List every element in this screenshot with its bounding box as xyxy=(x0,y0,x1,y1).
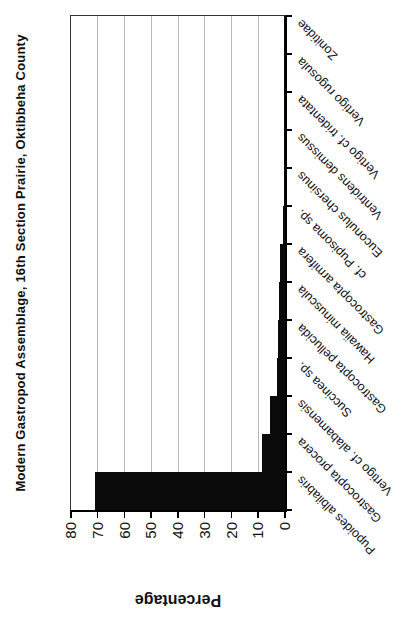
y-tick-mark xyxy=(231,512,233,518)
y-tick-mark xyxy=(70,512,72,518)
bar-1 xyxy=(95,472,285,510)
x-tick-mark xyxy=(286,319,292,321)
y-tick-mark xyxy=(257,512,259,518)
x-tick-mark xyxy=(286,433,292,435)
gridline xyxy=(258,16,259,510)
bar-11 xyxy=(284,92,285,130)
y-tick-label: 50 xyxy=(142,522,160,566)
chart-canvas: Modern Gastropod Assemblage, 16th Sectio… xyxy=(0,0,411,618)
y-tick-mark xyxy=(284,512,286,518)
gridline xyxy=(178,16,179,510)
bar-4 xyxy=(277,358,285,396)
y-tick-mark xyxy=(124,512,126,518)
bar-10 xyxy=(284,130,285,168)
bar-8 xyxy=(283,206,285,244)
gridline xyxy=(151,16,152,510)
chart-title: Modern Gastropod Assemblage, 16th Sectio… xyxy=(13,6,28,520)
y-tick-mark xyxy=(97,512,99,518)
x-tick-mark xyxy=(286,509,292,511)
bar-13 xyxy=(284,16,285,54)
bar-2 xyxy=(262,434,285,472)
bar-5 xyxy=(278,320,285,358)
bar-9 xyxy=(284,168,285,206)
bar-7 xyxy=(280,244,285,282)
category-label: cf. Pupisoma sp. xyxy=(294,207,369,282)
x-tick-mark xyxy=(286,15,292,17)
y-tick-label: 60 xyxy=(116,522,134,566)
y-tick-label: 70 xyxy=(89,522,107,566)
x-tick-mark xyxy=(286,91,292,93)
scanned-chart-page: Modern Gastropod Assemblage, 16th Sectio… xyxy=(0,0,411,618)
x-tick-mark xyxy=(286,395,292,397)
bar-3 xyxy=(270,396,285,434)
y-axis-title: Percentage xyxy=(128,590,228,610)
y-tick-label: 80 xyxy=(62,522,80,566)
x-tick-mark xyxy=(286,243,292,245)
gridline xyxy=(204,16,205,510)
y-tick-mark xyxy=(204,512,206,518)
y-tick-label: 40 xyxy=(169,522,187,566)
x-tick-mark xyxy=(286,129,292,131)
y-tick-mark xyxy=(150,512,152,518)
y-tick-label: 30 xyxy=(196,522,214,566)
y-tick-label: 10 xyxy=(249,522,267,566)
x-tick-mark xyxy=(286,53,292,55)
bar-6 xyxy=(279,282,285,320)
gridline xyxy=(231,16,232,510)
bar-12 xyxy=(284,54,285,92)
x-tick-mark xyxy=(286,357,292,359)
gridline xyxy=(124,16,125,510)
category-label: Vertigo rugosula xyxy=(294,55,368,129)
y-tick-label: 0 xyxy=(276,522,294,566)
x-tick-mark xyxy=(286,471,292,473)
x-tick-mark xyxy=(286,205,292,207)
x-tick-mark xyxy=(286,167,292,169)
gridline xyxy=(97,16,98,510)
y-tick-label: 20 xyxy=(223,522,241,566)
y-tick-mark xyxy=(177,512,179,518)
x-tick-mark xyxy=(286,281,292,283)
